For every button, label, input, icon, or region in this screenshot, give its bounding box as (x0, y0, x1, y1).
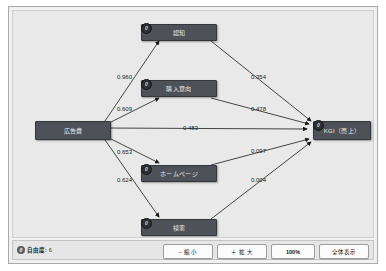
info-badge-icon: 0 (17, 246, 25, 254)
node-badge-icon: 0 (141, 218, 152, 229)
status-bar: 0 自由度: 6 − 縮 小 ＋ 拡 大 100% 全体表示 (12, 240, 374, 260)
node-badge-icon: 0 (141, 79, 152, 90)
zoom-button-group: − 縮 小 ＋ 拡 大 100% 全体表示 (163, 244, 369, 259)
degrees-of-freedom-value: 6 (49, 247, 52, 253)
node-kensaku[interactable]: 0 検索 (141, 219, 217, 236)
node-label: ホームページ (160, 171, 198, 177)
edge-kokokuhi-kgi (105, 128, 307, 129)
zoom-in-button[interactable]: ＋ 拡 大 (217, 244, 267, 259)
edge-coefficient-ninchi-kgi: 0.354 (251, 74, 266, 80)
edge-coefficient-kokokuhi-kounyu: 0.609 (117, 106, 132, 112)
node-ninchi[interactable]: 0 認知 (141, 24, 217, 41)
diagram-window: 0 認知 0 購入意向 広告費 0 KGI（売上） 0 ホームページ 0 検索 (8, 6, 378, 264)
edge-coefficient-homepage-kgi: 0.097 (251, 148, 266, 154)
edge-coefficient-kokokuhi-ninchi: 0.960 (117, 74, 132, 80)
node-kgi[interactable]: 0 KGI（売上） (313, 121, 371, 140)
node-label: 購入意向 (166, 86, 191, 92)
node-kokokuhi[interactable]: 広告費 (35, 121, 111, 140)
node-kounyu[interactable]: 0 購入意向 (141, 80, 217, 97)
node-homepage[interactable]: 0 ホームページ (141, 165, 217, 182)
zoom-out-button[interactable]: − 縮 小 (163, 244, 213, 259)
node-label: 認知 (173, 30, 186, 36)
app-root: 0 認知 0 購入意向 広告費 0 KGI（売上） 0 ホームページ 0 検索 (0, 0, 386, 271)
degrees-of-freedom-label: 自由度: (27, 246, 47, 254)
zoom-100-button[interactable]: 100% (271, 244, 315, 259)
diagram-canvas[interactable]: 0 認知 0 購入意向 広告費 0 KGI（売上） 0 ホームページ 0 検索 (12, 10, 374, 238)
edge-coefficient-kokokuhi-kgi: 0.483 (183, 125, 198, 131)
node-badge-icon: 0 (141, 23, 152, 34)
edge-coefficient-kokokuhi-homepage: 0.653 (117, 149, 132, 155)
edge-coefficient-kounyu-kgi: 0.478 (251, 106, 266, 112)
node-label: 広告費 (64, 128, 83, 134)
edge-coefficient-kensaku-kgi: 0.004 (251, 177, 266, 183)
node-label: KGI（売上） (324, 128, 360, 134)
fit-to-view-button[interactable]: 全体表示 (319, 244, 369, 259)
degrees-of-freedom-group: 0 自由度: 6 (17, 246, 52, 254)
node-label: 検索 (173, 225, 186, 231)
node-badge-icon: 0 (313, 120, 324, 131)
node-badge-icon: 0 (141, 164, 152, 175)
edge-coefficient-kokokuhi-kensaku: 0.624 (117, 177, 132, 183)
